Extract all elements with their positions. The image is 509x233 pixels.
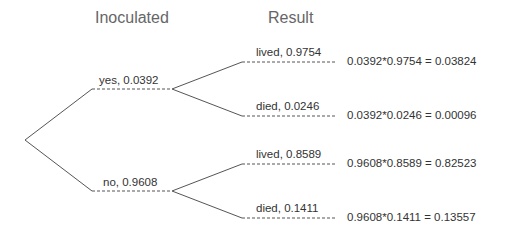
leaf-label-no-lived: lived, 0.8589	[256, 148, 321, 160]
result-yes-died: 0.0392*0.0246 = 0.00096	[347, 109, 477, 121]
branch-line-no-lived	[172, 164, 242, 191]
result-no-lived: 0.9608*0.8589 = 0.82523	[347, 157, 477, 169]
branch-line-no	[25, 140, 92, 191]
header-inoculated: Inoculated	[95, 9, 169, 27]
branch-label-no: no, 0.9608	[103, 176, 157, 188]
branch-line-no-died	[172, 191, 242, 218]
branch-line-yes-died	[172, 89, 242, 116]
leaf-label-no-died: died, 0.1411	[256, 202, 318, 214]
branch-line-yes	[25, 89, 92, 140]
leaf-label-yes-died: died, 0.0246	[256, 100, 319, 112]
result-no-died: 0.9608*0.1411 = 0.13557	[347, 211, 476, 223]
header-result: Result	[268, 9, 313, 27]
branch-line-yes-lived	[172, 62, 242, 89]
branch-label-yes: yes, 0.0392	[99, 74, 158, 86]
leaf-label-yes-lived: lived, 0.9754	[256, 46, 321, 58]
result-yes-lived: 0.0392*0.9754 = 0.03824	[347, 55, 477, 67]
